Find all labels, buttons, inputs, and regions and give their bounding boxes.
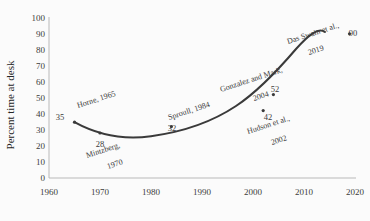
x-tick-2010: 2010 [295,187,314,197]
annotation-mintzberg-label-line2: 1970 [106,157,124,171]
y-tick-20: 20 [36,141,46,151]
annotation-dasswain-value: 90 [349,28,358,38]
y-tick-60: 60 [36,77,46,87]
x-tick-2000: 2000 [244,187,263,197]
data-point-mintzberg [98,131,101,134]
annotation-hudson-label-line2: 2002 [270,133,288,147]
x-tick-1980: 1980 [142,187,161,197]
annotation-dasswain-label-line2: 2019 [307,43,325,57]
y-axis-label: Percent time at desk [4,60,16,149]
y-tick-70: 70 [36,61,46,71]
annotation-sproull-label: Sproull, 1984 [167,100,211,122]
y-tick-50: 50 [36,93,46,103]
annotation-sproull-value: 32 [168,123,177,133]
x-tick-1970: 1970 [91,187,110,197]
y-tick-100: 100 [32,13,46,23]
y-tick-10: 10 [36,157,46,167]
y-tick-0: 0 [41,173,46,183]
annotation-gonzalez-value: 52 [271,84,280,94]
data-point-horne [73,121,76,124]
y-tick-30: 30 [36,125,46,135]
percent-time-at-desk-chart: Percent time at desk 100 90 80 70 60 50 … [0,0,370,221]
x-tick-1990: 1990 [193,187,212,197]
x-tick-1960: 1960 [40,187,59,197]
y-tick-90: 90 [36,29,46,39]
annotation-horne-label: Horne, 1965 [76,89,117,110]
annotation-dasswain-label-line1: Das Swain et al., [286,21,340,46]
x-tick-2020: 2020 [346,187,365,197]
annotation-horne-value: 35 [56,112,65,122]
y-tick-80: 80 [36,45,46,55]
y-tick-40: 40 [36,109,46,119]
chart-container: Percent time at desk 100 90 80 70 60 50 … [0,0,370,221]
